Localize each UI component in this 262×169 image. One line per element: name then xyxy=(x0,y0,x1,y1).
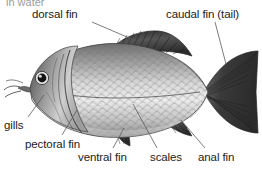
label-dorsal-fin: dorsal fin xyxy=(32,8,78,20)
label-gills: gills xyxy=(4,119,23,131)
label-pectoral-fin: pectoral fin xyxy=(25,138,80,150)
fish-anatomy-diagram: in water xyxy=(0,0,262,169)
leader-caudal-fin xyxy=(215,22,226,64)
label-caudal-fin: caudal fin (tail) xyxy=(166,8,239,20)
caudal-fin-shape xyxy=(204,51,258,133)
label-anal-fin: anal fin xyxy=(198,151,234,163)
label-ventral-fin: ventral fin xyxy=(78,151,127,163)
leader-dorsal-fin xyxy=(92,22,134,40)
label-scales: scales xyxy=(150,151,182,163)
